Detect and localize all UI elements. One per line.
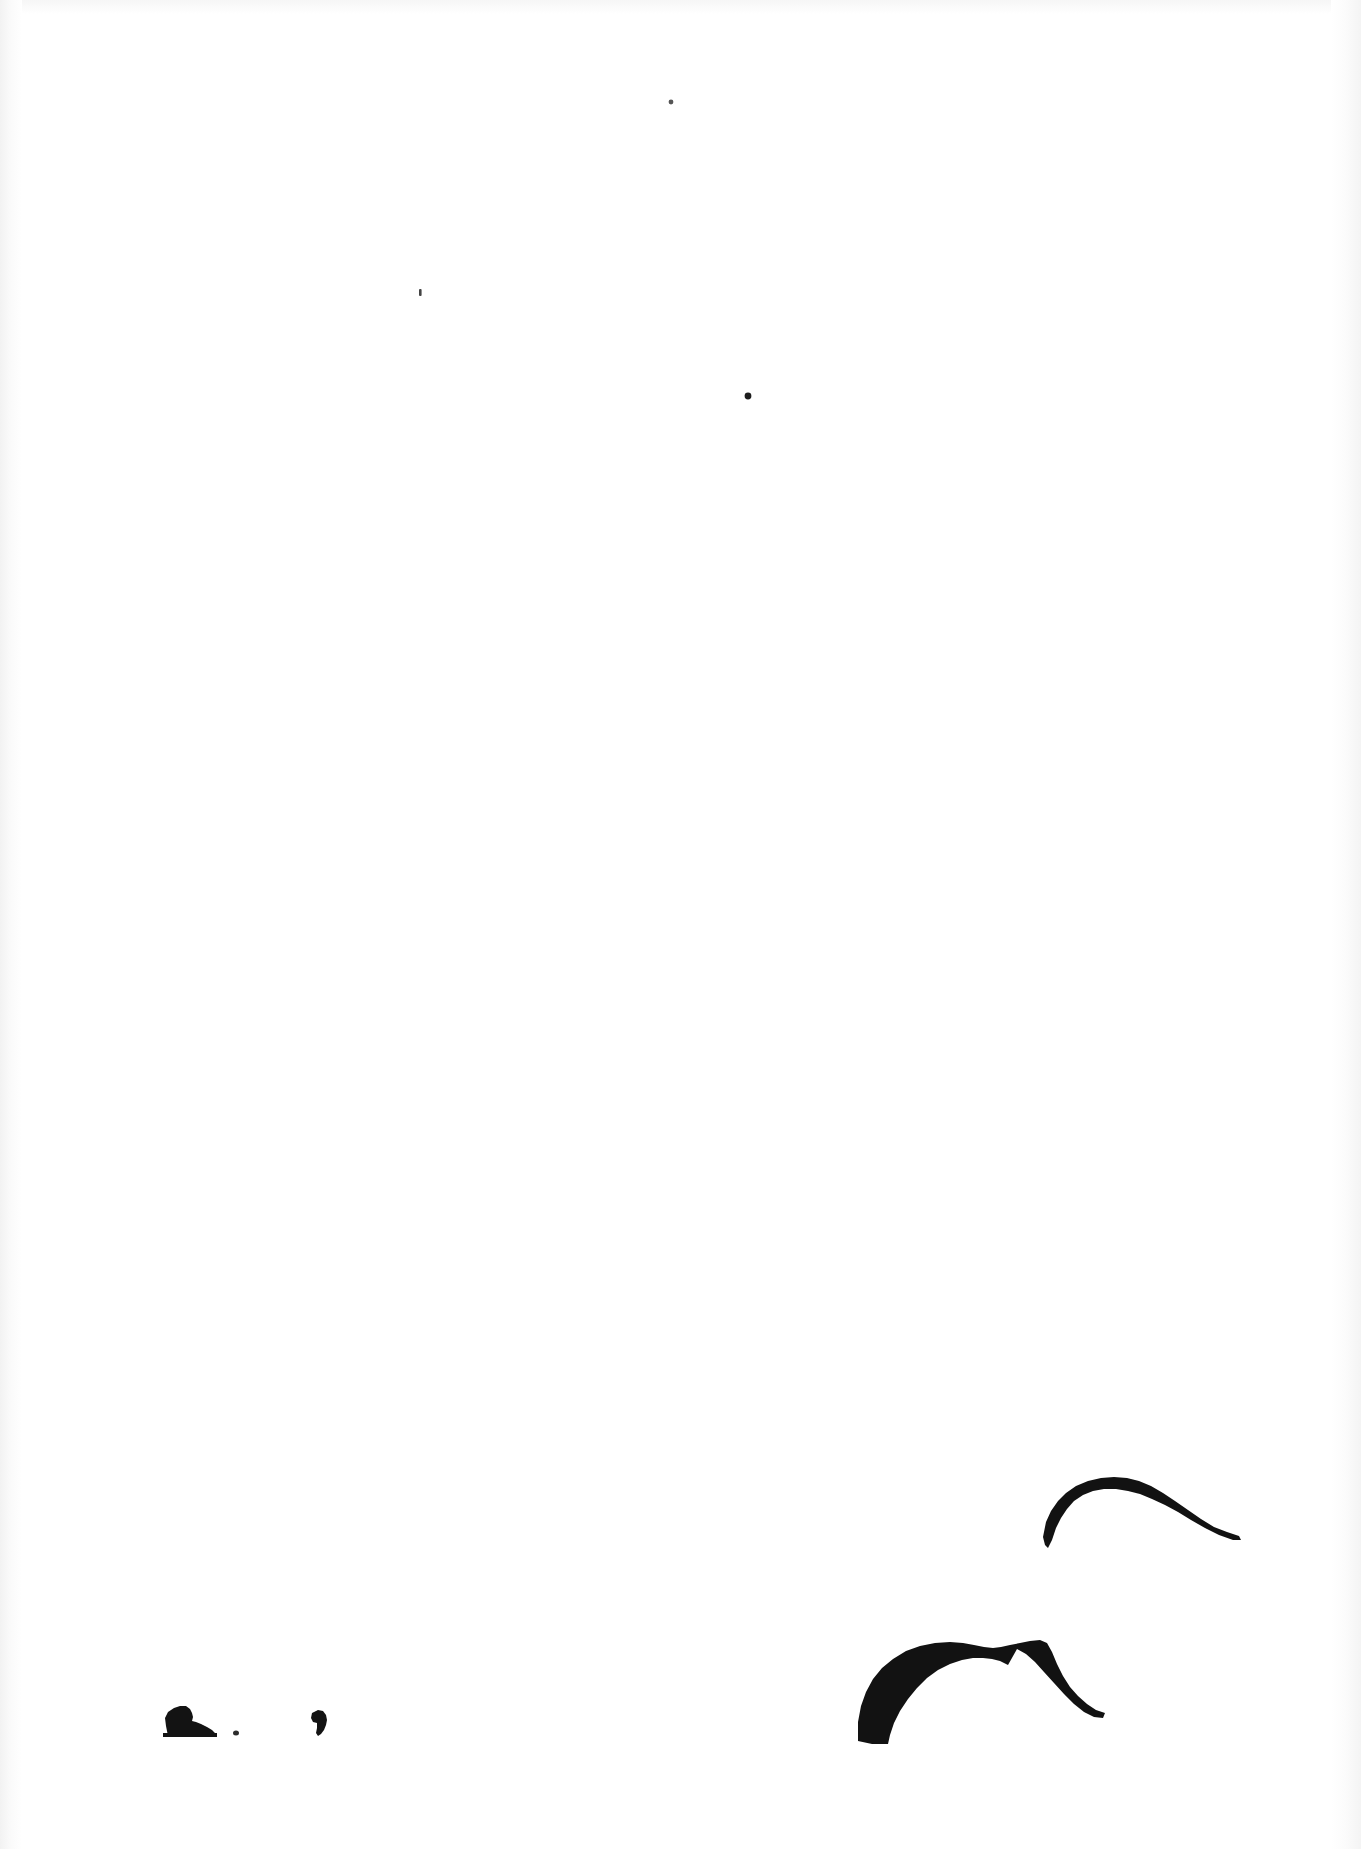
mid-speck-mark bbox=[745, 393, 752, 400]
boot-blob-mark bbox=[165, 1706, 215, 1736]
tick-speck-mark bbox=[419, 289, 422, 296]
boot-blob-base bbox=[163, 1733, 217, 1737]
small-dot-mark bbox=[233, 1731, 239, 1736]
top-speck-mark bbox=[669, 100, 674, 105]
comma-blob-mark bbox=[311, 1710, 327, 1736]
upper-arc-mark bbox=[1043, 1477, 1241, 1548]
ink-layer bbox=[0, 0, 1361, 1849]
lower-arc-mark bbox=[858, 1640, 1105, 1744]
scanned-page: Scanned Page Nearly blank scanned page w… bbox=[0, 0, 1361, 1849]
